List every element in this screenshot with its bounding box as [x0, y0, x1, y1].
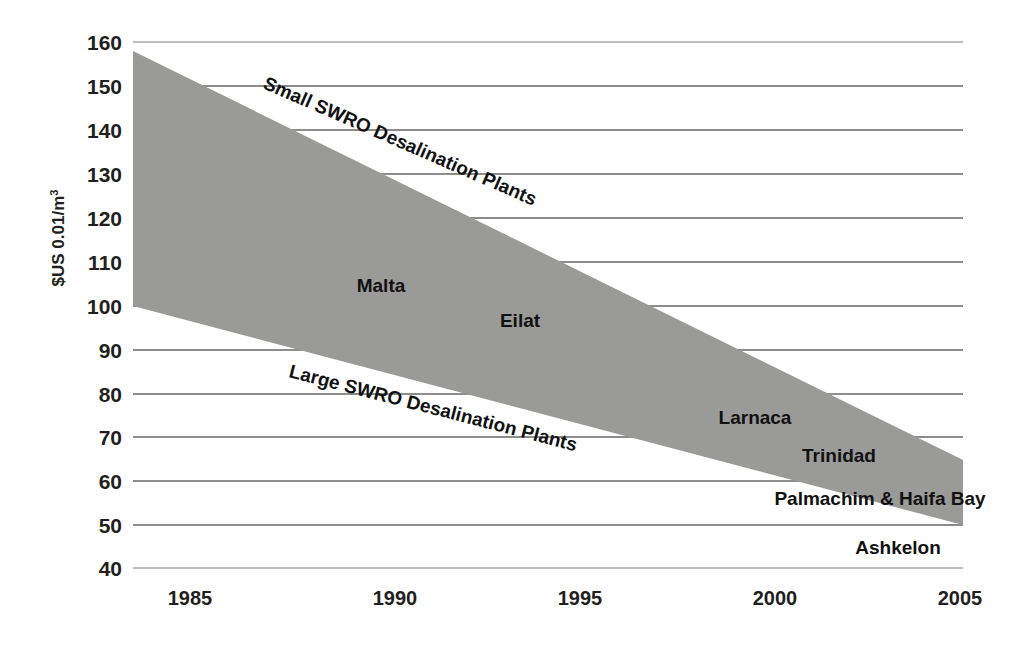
y-tick-label: 160 [87, 31, 122, 54]
annotation-trinidad: Trinidad [802, 445, 876, 466]
y-axis-ticks: 160 150 140 130 120 110 100 90 80 70 60 … [87, 31, 122, 580]
y-tick-label: 80 [99, 383, 122, 406]
x-tick-label: 1985 [168, 587, 213, 609]
y-tick-label: 70 [99, 426, 122, 449]
x-tick-label: 2005 [938, 587, 983, 609]
svg-text:$US 0.01/m3: $US 0.01/m3 [48, 190, 68, 287]
y-tick-label: 130 [87, 163, 122, 186]
annotation-eilat: Eilat [500, 310, 541, 331]
annotation-larnaca: Larnaca [719, 407, 792, 428]
y-tick-label: 60 [99, 470, 122, 493]
annotation-ashkelon: Ashkelon [855, 537, 941, 558]
annotation-palmachim-haifa-bay: Palmachim & Haifa Bay [774, 488, 986, 509]
y-tick-label: 150 [87, 75, 122, 98]
y-tick-label: 110 [88, 251, 122, 274]
y-tick-label: 90 [99, 339, 122, 362]
y-tick-label: 140 [87, 119, 122, 142]
y-tick-label: 50 [99, 514, 122, 537]
annotation-malta: Malta [357, 275, 406, 296]
y-axis-title-superscript: 3 [48, 190, 60, 196]
y-axis-title: $US 0.01/m3 [48, 190, 68, 287]
x-axis-ticks: 1985 1990 1995 2000 2005 [168, 587, 983, 609]
y-tick-label: 120 [87, 207, 122, 230]
x-tick-label: 1995 [558, 587, 603, 609]
cost-decline-area-chart: 160 150 140 130 120 110 100 90 80 70 60 … [0, 0, 1010, 645]
y-axis-title-text: $US 0.01/m [49, 196, 68, 287]
chart-container: 160 150 140 130 120 110 100 90 80 70 60 … [0, 0, 1010, 645]
y-tick-label: 100 [87, 295, 122, 318]
x-tick-label: 1990 [373, 587, 418, 609]
y-tick-label: 40 [99, 557, 122, 580]
x-tick-label: 2000 [753, 587, 798, 609]
